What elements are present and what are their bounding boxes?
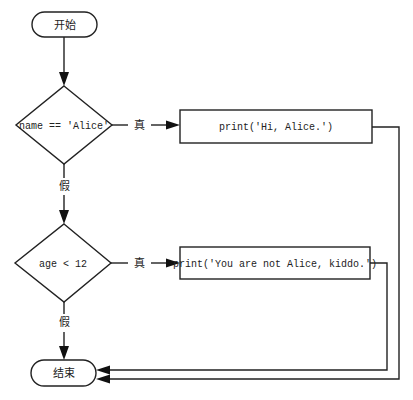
edge-label-false-1: 假 (59, 179, 70, 193)
edge-label-false-2: 假 (59, 315, 70, 329)
process-2-label: print('You are not Alice, kiddo.') (173, 259, 377, 270)
edge-cond2-false: 假 (59, 302, 70, 360)
process-1-label: print('Hi, Alice.') (219, 122, 333, 133)
process-node-hi-alice: print('Hi, Alice.') (180, 110, 372, 143)
decision-2-label: age < 12 (39, 259, 87, 270)
end-node: 结束 (31, 360, 96, 386)
arrowhead-icon (59, 210, 69, 224)
arrowhead-icon (96, 366, 110, 375)
arrowhead-icon (166, 121, 180, 130)
start-node: 开始 (32, 12, 97, 37)
start-label: 开始 (54, 18, 76, 32)
decision-1-label: name == 'Alice' (19, 121, 109, 132)
end-label: 结束 (53, 367, 75, 380)
decision-node-name-check: name == 'Alice' (16, 86, 112, 164)
edge-cond1-false: 假 (59, 164, 70, 224)
flowchart: 开始 name == 'Alice' 真 print('Hi, Alice.')… (0, 0, 413, 400)
edge-cond1-true: 真 (112, 118, 180, 132)
edge-cond2-true: 真 (111, 256, 180, 270)
edge-label-true-2: 真 (134, 256, 145, 270)
arrowhead-icon (59, 346, 69, 360)
process-node-not-alice: print('You are not Alice, kiddo.') (173, 247, 377, 279)
arrowhead-icon (96, 375, 110, 384)
decision-node-age-check: age < 12 (15, 224, 111, 302)
edge-label-true-1: 真 (134, 118, 145, 132)
edge-start-to-cond1 (59, 37, 69, 86)
arrowhead-icon (59, 72, 69, 86)
edge-action2-to-end (96, 263, 387, 375)
